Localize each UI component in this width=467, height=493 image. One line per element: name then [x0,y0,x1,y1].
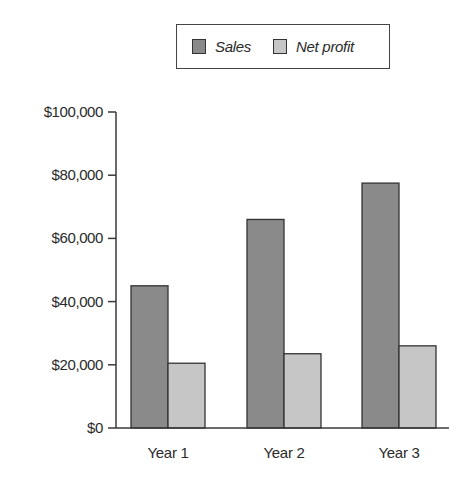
y-tick-label: $60,000 [52,229,103,246]
x-tick-label: Year 2 [263,444,304,461]
bar-net-profit-year-3 [399,346,436,428]
x-tick-label: Year 3 [378,444,419,461]
y-axis: $0$20,000$40,000$60,000$80,000$100,000 [44,103,116,436]
bar-net-profit-year-2 [284,354,321,428]
y-tick-label: $40,000 [52,293,103,310]
bar-chart: $0$20,000$40,000$60,000$80,000$100,000 Y… [0,0,467,493]
y-tick-label: $0 [87,419,103,436]
x-tick-label: Year 1 [147,444,188,461]
y-tick-label: $20,000 [52,356,103,373]
y-tick-label: $80,000 [52,166,103,183]
y-tick-label: $100,000 [44,103,103,120]
bar-net-profit-year-1 [168,363,205,428]
bars [131,183,436,428]
bar-sales-year-3 [362,183,399,428]
x-axis: Year 1Year 2Year 3 [116,428,449,461]
bar-sales-year-2 [247,219,284,428]
bar-sales-year-1 [131,286,168,428]
